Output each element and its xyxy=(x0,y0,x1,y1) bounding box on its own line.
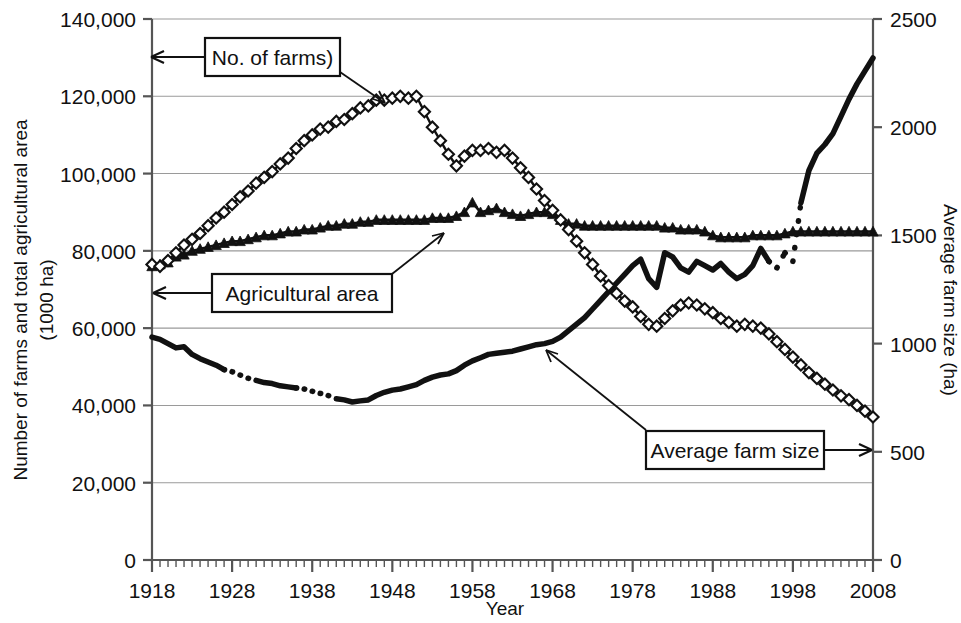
left-tick-label: 140,000 xyxy=(60,8,136,31)
left-tick-label: 20,000 xyxy=(72,472,136,495)
left-axis-title-line1: Number of farms and total agricultural a… xyxy=(10,119,31,481)
left-tick-label: 40,000 xyxy=(72,394,136,417)
left-axis-title-line2: (1000 ha) xyxy=(36,259,57,340)
bottom-axis-title: Year xyxy=(486,598,525,619)
bottom-tick-label: 1928 xyxy=(209,579,256,602)
left-tick-label: 80,000 xyxy=(72,240,136,263)
callout-area-label: Agricultural area xyxy=(226,282,379,305)
right-tick-label: 0 xyxy=(890,549,902,572)
right-tick-label: 2500 xyxy=(890,8,937,31)
bottom-tick-label: 2008 xyxy=(850,579,897,602)
callout-farms-label: No. of farms) xyxy=(212,46,333,69)
bottom-tick-label: 1988 xyxy=(689,579,736,602)
left-tick-label: 60,000 xyxy=(72,317,136,340)
right-tick-label: 2000 xyxy=(890,116,937,139)
right-axis-title: Average farm size (ha) xyxy=(940,204,961,396)
right-tick-label: 1500 xyxy=(890,224,937,247)
right-tick-label: 1000 xyxy=(890,333,937,356)
left-tick-label: 0 xyxy=(124,549,136,572)
right-tick-label: 500 xyxy=(890,441,925,464)
bottom-tick-label: 1938 xyxy=(289,579,336,602)
farms-agricultural-area-chart: 020,00040,00060,00080,000100,000120,0001… xyxy=(0,0,961,623)
bottom-tick-label: 1948 xyxy=(369,579,416,602)
chart-background xyxy=(0,0,961,623)
bottom-tick-label: 1968 xyxy=(529,579,576,602)
bottom-tick-label: 1918 xyxy=(129,579,176,602)
callout-size-label: Average farm size xyxy=(651,439,820,462)
left-tick-label: 100,000 xyxy=(60,163,136,186)
bottom-tick-label: 1978 xyxy=(609,579,656,602)
chart-figure: 020,00040,00060,00080,000100,000120,0001… xyxy=(0,0,961,623)
bottom-tick-label: 1998 xyxy=(770,579,817,602)
left-tick-label: 120,000 xyxy=(60,85,136,108)
